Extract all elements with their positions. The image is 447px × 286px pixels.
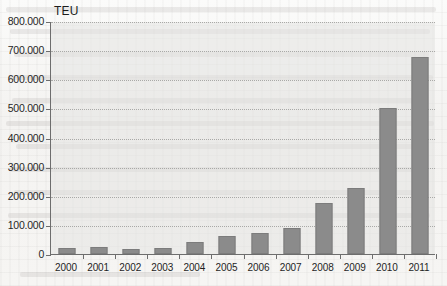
bar-slot — [115, 22, 147, 254]
bar-slot — [308, 22, 340, 254]
y-axis-tick-label: 100.000 — [0, 219, 44, 231]
x-axis-tick — [147, 254, 148, 259]
y-axis-tick-label: 800.000 — [0, 15, 44, 27]
bar — [123, 249, 140, 254]
x-axis-tick-label: 2002 — [119, 262, 141, 273]
x-axis-tick — [340, 254, 341, 259]
bar — [219, 236, 236, 254]
y-axis-tick-label: 300.000 — [0, 161, 44, 173]
y-axis-tick-label: 0 — [0, 248, 44, 260]
chart-figure: TEU 800.000700.000600.000500.000400.0003… — [0, 0, 447, 286]
bar — [187, 242, 204, 254]
x-axis-tick — [436, 254, 437, 259]
bar — [411, 57, 428, 254]
x-axis-tick-label: 2005 — [216, 262, 238, 273]
y-axis-tick-label: 200.000 — [0, 190, 44, 202]
x-axis-tick-label: 2007 — [280, 262, 302, 273]
bar-slot — [83, 22, 115, 254]
bar-slot — [404, 22, 436, 254]
bar-slot — [51, 22, 83, 254]
bar — [379, 108, 396, 254]
x-axis-tick — [276, 254, 277, 259]
y-axis-tick — [46, 255, 51, 256]
bar — [347, 188, 364, 254]
bar — [283, 228, 300, 254]
plot-area — [50, 22, 435, 255]
x-axis-tick-label: 2010 — [376, 262, 398, 273]
x-axis-tick — [372, 254, 373, 259]
x-axis-tick-label: 2006 — [248, 262, 270, 273]
x-axis-tick — [404, 254, 405, 259]
y-axis-unit-label: TEU — [54, 4, 79, 18]
x-axis-tick-labels: 2000200120022003200420052006200720082009… — [50, 262, 435, 278]
x-axis-tick-label: 2000 — [55, 262, 77, 273]
bar — [155, 248, 172, 254]
y-axis-tick-label: 600.000 — [0, 73, 44, 85]
bar-slot — [244, 22, 276, 254]
x-axis-tick-label: 2001 — [87, 262, 109, 273]
bar-slot — [372, 22, 404, 254]
bar-slot — [276, 22, 308, 254]
y-axis-tick-label: 500.000 — [0, 102, 44, 114]
x-axis-tick-label: 2003 — [151, 262, 173, 273]
x-axis-tick — [244, 254, 245, 259]
y-axis-tick-label: 400.000 — [0, 132, 44, 144]
x-axis-tick-label: 2011 — [408, 262, 429, 273]
bar-slot — [147, 22, 179, 254]
x-axis-tick — [115, 254, 116, 259]
y-axis-tick-label: 700.000 — [0, 44, 44, 56]
x-axis-tick — [179, 254, 180, 259]
bar — [251, 233, 268, 254]
x-axis-tick-label: 2009 — [344, 262, 366, 273]
x-axis-tick — [308, 254, 309, 259]
x-axis-tick — [211, 254, 212, 259]
bar — [59, 248, 76, 254]
bar — [91, 247, 108, 254]
bar-slot — [211, 22, 243, 254]
x-axis-tick-label: 2008 — [312, 262, 334, 273]
bar — [315, 203, 332, 254]
x-axis-tick — [83, 254, 84, 259]
bar-slot — [340, 22, 372, 254]
bar-series — [51, 22, 435, 254]
bar-slot — [179, 22, 211, 254]
x-axis-tick-label: 2004 — [183, 262, 205, 273]
